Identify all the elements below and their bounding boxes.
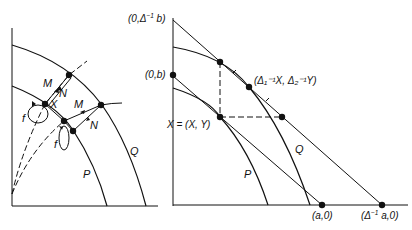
left-dot-mid [61,118,67,124]
left-dot-Q-top [66,72,72,78]
label-N-top: N [59,87,67,99]
label-curve-P-right: P [244,168,252,180]
label-curve-P-left: P [83,168,91,180]
label-y-b: (0,b) [145,69,166,80]
diagram-canvas: M N X M N f f Q P (0,Δ−1 b) (0,b) X = (X… [0,0,412,230]
right-dot-Q-vertical [217,59,223,65]
right-dot-tangent [246,84,252,90]
label-tangent-point: (Δ₁⁻¹X, Δ₂⁻¹Y) [254,75,317,86]
right-tangent-outer [173,20,382,205]
right-dot-b [170,72,176,78]
label-curve-Q-right: Q [295,143,304,155]
label-X-point: X = (X, Y) [166,119,210,130]
label-curve-Q-left: Q [130,145,139,157]
right-dot-scaled-a [379,202,385,208]
label-M-mid: M [74,98,84,110]
label-M-top: M [43,77,53,89]
label-N-mid: N [90,119,98,131]
left-dot-Q-right [98,102,104,108]
label-f-mid: f [54,138,58,150]
right-tangent-inner [173,76,322,205]
label-x-scaled-a: (Δ−1 a,0) [361,209,399,221]
right-dot-a [319,202,325,208]
right-dot-horizontal [279,114,285,120]
right-dot-X [217,114,223,120]
label-x-a: (a,0) [312,210,333,221]
label-X: X [49,98,58,110]
left-dashed-ray-2 [12,121,64,194]
left-dot-X [42,101,48,107]
left-dot-P [70,128,76,134]
label-y-top: (0,Δ−1 b) [128,12,166,24]
mid-loop-f [59,126,69,150]
label-f-left: f [22,112,26,124]
left-loop-f [28,105,48,123]
